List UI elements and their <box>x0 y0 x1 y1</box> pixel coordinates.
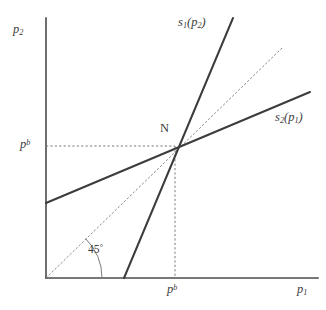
axis-label-y-subscript: 2 <box>19 28 23 37</box>
curve-label-s2: s2(p1) <box>275 111 303 124</box>
angle-label-45: 45° <box>88 243 103 256</box>
curve-label-s2-paren-close: ) <box>299 110 303 124</box>
axis-label-x-subscript: 1 <box>303 288 307 297</box>
figure-root: p2 p1 s1(p2) s2(p1) N pb pb 45° <box>0 0 326 310</box>
curve-label-s1-paren-close: ) <box>202 15 206 29</box>
angle-label-value: 45 <box>88 243 100 255</box>
angle-label-degree-symbol: ° <box>100 242 104 252</box>
tick-label-x-pb-superscript: b <box>173 283 177 292</box>
tick-label-y-pb: pb <box>20 138 30 151</box>
plot-background <box>0 0 326 310</box>
axis-label-x: p1 <box>297 283 307 296</box>
axis-label-y: p2 <box>13 23 23 36</box>
tick-label-x-pb: pb <box>167 283 177 296</box>
chart-canvas <box>0 0 326 310</box>
curve-label-s1: s1(p2) <box>178 16 206 29</box>
equilibrium-point-label: N <box>160 122 169 135</box>
tick-label-y-pb-superscript: b <box>26 138 30 147</box>
